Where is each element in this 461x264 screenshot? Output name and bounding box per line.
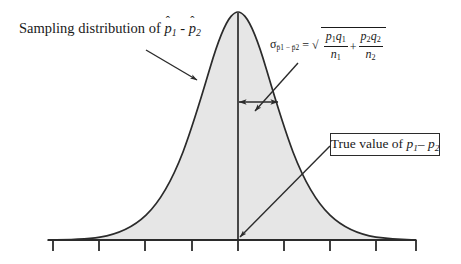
fraction-2-numerator: p2q2 <box>359 30 383 47</box>
fraction-term-2: p2q2 n2 <box>359 30 383 63</box>
standard-deviation-formula: σp̈1 − p̈2 = √ p1q1 n1 + p2q2 n2 <box>270 27 386 63</box>
q2-subscript: 2 <box>377 35 381 44</box>
sigma-symbol: σp̈1 − p̈2 <box>270 38 299 52</box>
caption-p1-hat: ˆp <box>164 21 171 36</box>
n2-subscript: 2 <box>372 53 376 62</box>
caption-p2-subscript: 2 <box>196 27 201 38</box>
true-value-p2-subscript: 2 <box>435 142 440 152</box>
caption-label: Sampling distribution of ˆp1 - ˆp2 <box>19 21 201 38</box>
hat-accent-2: ˆ <box>190 15 194 27</box>
q1-subscript: 1 <box>342 35 346 44</box>
radical-sign: √ <box>312 39 319 51</box>
sigma-subscript: p̈1 − p̈2 <box>276 43 299 52</box>
plus-sign: + <box>348 41 359 53</box>
fraction-term-1: p1q1 n1 <box>324 30 348 63</box>
fraction-1-numerator: p1q1 <box>324 30 348 47</box>
true-value-callout-box: True value of p1– p2 <box>330 133 440 156</box>
true-value-prefix: True value of <box>331 136 407 151</box>
caption-minus: - <box>177 20 189 36</box>
caption-prefix: Sampling distribution of <box>19 20 164 36</box>
n1-subscript: 1 <box>337 53 341 62</box>
caption-leader-line <box>146 50 197 80</box>
fraction-1-denominator: n1 <box>324 47 348 63</box>
true-value-p2: p <box>428 136 435 151</box>
fraction-2-denominator: n2 <box>359 47 383 63</box>
distribution-plot <box>0 0 461 264</box>
hat-accent-1: ˆ <box>166 15 170 27</box>
caption-p2-hat: ˆp <box>189 21 196 36</box>
true-value-minus: – <box>418 136 425 151</box>
equals-sign: = <box>302 39 309 51</box>
radicand: p1q1 n1 + p2q2 n2 <box>321 27 386 63</box>
sampling-distribution-figure: Sampling distribution of ˆp1 - ˆp2 σp̈1 … <box>0 0 461 264</box>
true-value-text: True value of p1– p2 <box>331 137 439 153</box>
axis-ticks <box>53 240 416 251</box>
